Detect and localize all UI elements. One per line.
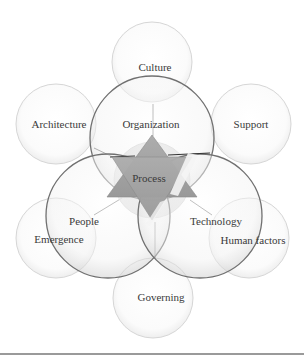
label-emergence: Emergence <box>34 234 83 245</box>
label-governing: Governing <box>137 292 184 303</box>
label-people: People <box>69 216 99 227</box>
label-support: Support <box>234 119 269 130</box>
label-technology: Technology <box>190 216 242 227</box>
label-process: Process <box>132 173 166 184</box>
label-organization: Organization <box>122 119 179 130</box>
label-human-factors: Human factors <box>220 235 285 246</box>
label-architecture: Architecture <box>32 119 87 130</box>
label-culture: Culture <box>139 62 172 73</box>
bottom-rule <box>0 353 304 355</box>
